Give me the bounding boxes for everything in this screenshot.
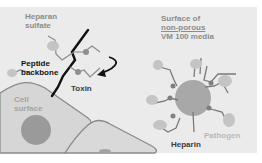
label-line: VM 100 media	[161, 32, 214, 41]
nucleus-2	[99, 149, 111, 153]
heparan-blob	[7, 69, 17, 77]
heparan-sulfate-label: Heparan sulfate	[25, 12, 57, 30]
label-line: backbone	[21, 68, 58, 77]
media-surface-label: Surface of non-porous VM 100 media	[161, 14, 214, 41]
heparin-blob	[223, 113, 235, 127]
heparan-blob	[47, 41, 59, 51]
label-line: sulfate	[25, 21, 57, 30]
label-line: Cell	[14, 95, 42, 104]
heparin-blob	[146, 95, 158, 105]
strand-node	[209, 81, 214, 86]
pathogen-label: Pathogen	[204, 131, 240, 140]
label-line: non-porous	[161, 23, 214, 32]
strand-node	[75, 69, 81, 75]
strand-node	[171, 114, 176, 119]
strand-node	[171, 84, 176, 89]
diagram-canvas: Heparan sulfate Peptide backbone Toxin C…	[0, 0, 262, 163]
heparin-blob	[190, 59, 202, 69]
strand-node	[83, 49, 89, 55]
label-line: surface	[14, 104, 42, 113]
toxin-label: Toxin	[71, 84, 92, 93]
strand-node	[207, 106, 212, 111]
label-line: Surface of	[161, 14, 214, 23]
label-line: Peptide	[21, 59, 58, 68]
heparin-blob	[153, 120, 167, 130]
nucleus	[21, 115, 51, 145]
heparin-blob	[153, 60, 163, 70]
strand-node	[168, 96, 173, 101]
peptide-backbone-label: Peptide backbone	[21, 59, 58, 77]
cell-surface-label: Cell surface	[14, 95, 42, 113]
pathogen-bead	[175, 80, 211, 116]
label-line: Heparan	[25, 12, 57, 21]
heparin-label: Heparin	[171, 140, 201, 149]
heparin-blob	[218, 75, 232, 87]
